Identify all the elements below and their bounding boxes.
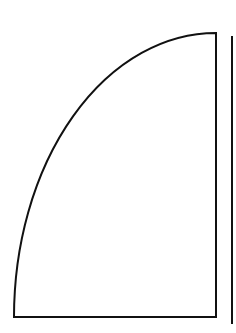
- diagram-canvas: [0, 0, 236, 333]
- quarter-ellipse-sector: [14, 33, 216, 317]
